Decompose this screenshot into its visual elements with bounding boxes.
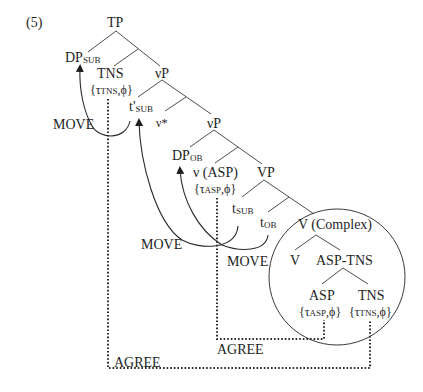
agree-label-inner: AGREE <box>217 342 264 357</box>
node-dp-sub: DPSUB <box>65 50 100 65</box>
node-v: V <box>290 253 300 268</box>
node-t-ob: tOB <box>260 215 276 230</box>
move-label-1: MOVE <box>53 117 94 132</box>
agree-lines <box>108 99 370 368</box>
example-number: (5) <box>26 15 43 31</box>
node-tp: TP <box>107 15 124 30</box>
tns-features-2: {τTNS,ϕ} <box>349 305 392 319</box>
asp-features-2: {τASP,ϕ} <box>299 305 341 319</box>
node-vp-1: νP <box>155 66 169 81</box>
node-asp: ASP <box>309 288 335 303</box>
node-vp-2: νP <box>207 116 221 131</box>
node-tns-2: TNS <box>358 288 384 303</box>
node-t-prime-sub: t'SUB <box>129 99 153 114</box>
node-v-asp: ν (ASP) <box>193 165 238 181</box>
node-v-complex: V (Complex) <box>298 217 372 233</box>
node-asp-tns: ASP-TNS <box>316 253 373 268</box>
move-label-2: MOVE <box>141 237 182 252</box>
move-label-3: MOVE <box>227 254 268 269</box>
syntax-tree-diagram: (5) TP DPSUB TNS {τTNS,ϕ} νP t'SU <box>0 0 423 392</box>
agree-line-outer <box>108 99 370 368</box>
asp-features-1: {τASP,ϕ} <box>194 182 236 196</box>
tns-features: {τTNS,ϕ} <box>90 83 133 97</box>
node-t-sub: tSUB <box>232 201 253 216</box>
agree-label-outer: AGREE <box>114 355 161 370</box>
node-tns: TNS <box>97 66 123 81</box>
node-vp-3: VP <box>257 165 275 180</box>
node-v-star: ν* <box>156 116 167 130</box>
tree-edges <box>88 31 368 284</box>
node-dp-ob: DPOB <box>172 148 202 163</box>
